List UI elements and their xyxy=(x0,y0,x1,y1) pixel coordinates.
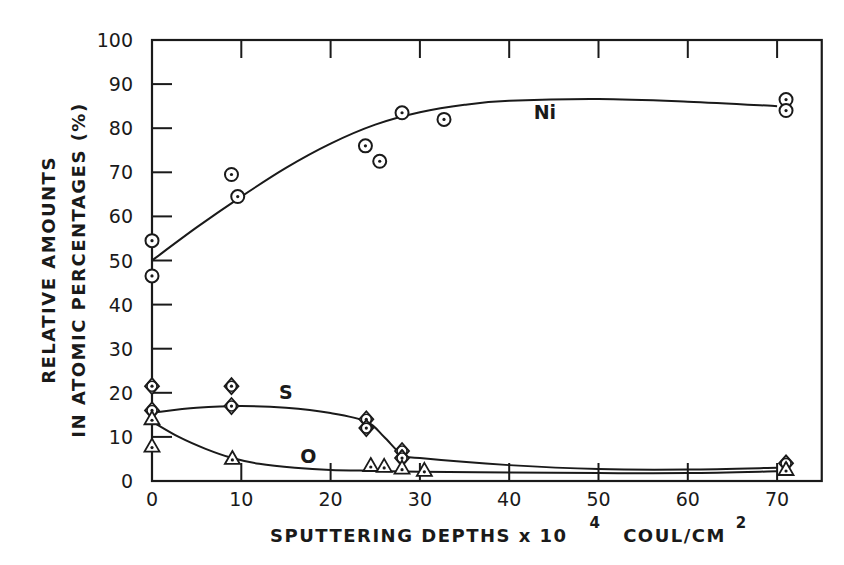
o-data-marker xyxy=(363,458,378,471)
x-tick-label: 50 xyxy=(586,488,610,510)
x-tick-label: 20 xyxy=(319,488,343,510)
center-dot-icon xyxy=(150,385,153,388)
x-axis-title-exp1: 4 xyxy=(589,514,601,532)
triangle-marker-icon xyxy=(145,439,160,452)
x-axis-title-exp2: 2 xyxy=(736,514,748,532)
center-dot-icon xyxy=(150,419,153,422)
ni-data-marker xyxy=(231,190,244,203)
center-dot-icon xyxy=(150,446,153,449)
x-axis-title: SPUTTERING DEPTHS x 10 4 COUL/CM 2 xyxy=(270,511,748,546)
center-dot-icon xyxy=(369,465,372,468)
s-series-label: S xyxy=(279,381,293,403)
center-dot-icon xyxy=(784,98,787,101)
triangle-marker-icon xyxy=(395,461,410,474)
s-data-marker xyxy=(224,398,238,414)
x-tick-label: 10 xyxy=(229,488,253,510)
fit-curves xyxy=(152,99,777,473)
x-tick-label: 60 xyxy=(676,488,700,510)
ni-data-marker xyxy=(146,269,159,282)
center-dot-icon xyxy=(442,118,445,121)
o-curve xyxy=(152,421,777,473)
center-dot-icon xyxy=(400,111,403,114)
center-dot-icon xyxy=(400,468,403,471)
o-data-marker xyxy=(395,461,410,474)
data-markers xyxy=(145,93,794,476)
x-axis-ticks: 010203040506070 xyxy=(146,40,789,510)
ni-data-marker xyxy=(146,234,159,247)
y-tick-label: 10 xyxy=(109,426,133,448)
triangle-marker-icon xyxy=(363,458,378,471)
center-dot-icon xyxy=(784,469,787,472)
y-axis-title: RELATIVE AMOUNTS IN ATOMIC PERCENTAGES (… xyxy=(38,102,89,437)
y-axis-title-line2: IN ATOMIC PERCENTAGES (%) xyxy=(68,102,89,437)
ni-data-marker xyxy=(225,168,238,181)
center-dot-icon xyxy=(230,404,233,407)
center-dot-icon xyxy=(150,274,153,277)
y-tick-label: 100 xyxy=(97,29,133,51)
y-tick-label: 50 xyxy=(109,250,133,272)
center-dot-icon xyxy=(150,239,153,242)
y-axis-ticks: 0102030405060708090100 xyxy=(97,29,172,492)
plot-border xyxy=(152,40,822,481)
ni-data-marker xyxy=(359,139,372,152)
center-dot-icon xyxy=(364,144,367,147)
y-tick-label: 40 xyxy=(109,294,133,316)
depth-profile-chart: 0102030405060708090100 010203040506070 N… xyxy=(0,0,844,565)
x-axis-title-unit: COUL/CM xyxy=(623,525,726,546)
ni-curve xyxy=(152,99,777,260)
center-dot-icon xyxy=(230,385,233,388)
ni-data-marker xyxy=(780,104,793,117)
y-tick-label: 20 xyxy=(109,382,133,404)
x-axis-title-main: SPUTTERING DEPTHS x 10 xyxy=(270,525,568,546)
y-axis-title-line1: RELATIVE AMOUNTS xyxy=(38,156,59,384)
y-tick-label: 90 xyxy=(109,73,133,95)
plot-frame xyxy=(152,40,822,481)
x-tick-label: 40 xyxy=(497,488,521,510)
ni-data-marker xyxy=(373,155,386,168)
s-data-marker xyxy=(224,378,238,394)
x-tick-label: 0 xyxy=(146,488,158,510)
x-tick-label: 30 xyxy=(408,488,432,510)
y-tick-label: 30 xyxy=(109,338,133,360)
triangle-marker-icon xyxy=(377,459,392,472)
y-tick-label: 80 xyxy=(109,117,133,139)
center-dot-icon xyxy=(365,426,368,429)
center-dot-icon xyxy=(378,160,381,163)
svg-text:SPUTTERING DEPTHS x 10 4: SPUTTERING DEPTHS x 10 4 COUL/CM 2 xyxy=(270,511,748,546)
o-data-marker xyxy=(145,439,160,452)
s-curve xyxy=(152,406,777,470)
s-data-marker xyxy=(145,378,159,394)
center-dot-icon xyxy=(423,470,426,473)
ni-data-marker xyxy=(396,106,409,119)
center-dot-icon xyxy=(383,466,386,469)
center-dot-icon xyxy=(236,195,239,198)
o-data-marker xyxy=(377,459,392,472)
center-dot-icon xyxy=(784,109,787,112)
center-dot-icon xyxy=(231,458,234,461)
y-tick-label: 60 xyxy=(109,205,133,227)
y-tick-label: 0 xyxy=(121,470,133,492)
ni-data-marker xyxy=(438,113,451,126)
ni-series-label: Ni xyxy=(534,101,556,123)
x-tick-label: 70 xyxy=(765,488,789,510)
center-dot-icon xyxy=(230,173,233,176)
y-tick-label: 70 xyxy=(109,161,133,183)
o-series-label: O xyxy=(300,445,316,467)
